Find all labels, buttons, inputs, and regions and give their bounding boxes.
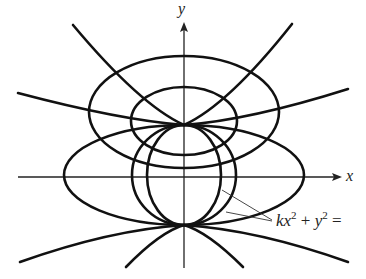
orthogonal-curves-diagram: x y kx2 + y2 = (0, 0, 366, 279)
family-equation-label: kx2 + y2 = (276, 209, 342, 230)
upper-shallow-curve (18, 89, 348, 125)
x-axis-label: x (345, 167, 353, 184)
family-label-group: kx2 + y2 = (222, 190, 342, 230)
upper-trajectories (18, 24, 348, 125)
y-axis-label: y (176, 0, 186, 18)
leader-line-1 (222, 190, 272, 220)
upper-steep-curve (73, 24, 292, 125)
